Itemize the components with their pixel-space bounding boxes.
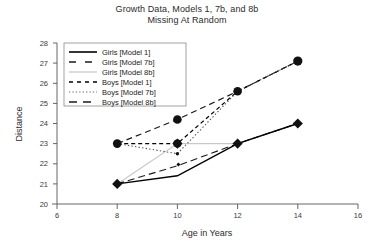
y-tick-label: 25	[40, 99, 48, 108]
y-axis-ticks	[52, 43, 57, 204]
y-tick-label: 26	[40, 79, 48, 88]
legend-label: Boys [Model 8b]	[102, 98, 156, 107]
y-axis-tick-labels: 20 21 22 23 24 25 26 27 28	[40, 39, 48, 209]
data-point-marker	[173, 115, 182, 124]
data-point-marker	[176, 152, 179, 155]
chart-figure: Growth Data, Models 1, 7b, and 8b Missin…	[0, 0, 374, 243]
data-point-marker	[176, 163, 180, 167]
data-point-marker	[293, 57, 302, 66]
data-point-marker	[233, 87, 242, 96]
x-tick-label: 8	[115, 211, 119, 220]
x-axis-ticks	[57, 204, 358, 209]
y-axis-label: Distance	[14, 106, 24, 141]
y-tick-label: 24	[40, 119, 48, 128]
legend-label: Girls [Model 8b]	[102, 68, 155, 77]
x-tick-label: 14	[294, 211, 302, 220]
x-tick-label: 12	[233, 211, 241, 220]
y-tick-label: 28	[40, 39, 48, 48]
x-axis-label: Age in Years	[182, 228, 233, 238]
data-point-marker	[112, 179, 122, 189]
y-tick-label: 22	[40, 159, 48, 168]
y-tick-label: 27	[40, 59, 48, 68]
legend-label: Boys [Model 7b]	[102, 88, 156, 97]
data-point-marker	[233, 139, 243, 149]
data-point-marker	[293, 118, 303, 128]
y-tick-label: 21	[40, 180, 48, 189]
x-tick-label: 6	[55, 211, 59, 220]
y-tick-label: 23	[40, 139, 48, 148]
x-tick-label: 10	[173, 211, 181, 220]
legend-label: Girls [Model 1]	[102, 48, 150, 57]
legend-label: Boys [Model 1]	[102, 78, 152, 87]
series-line-girls-model-1	[117, 124, 298, 184]
x-axis-tick-labels: 6 8 10 12 14 16	[55, 211, 362, 220]
plot-area: 20 21 22 23 24 25 26 27 28 6 8 10 12 14 …	[0, 0, 374, 243]
legend-label: Girls [Model 7b]	[102, 58, 155, 67]
chart-legend: Girls [Model 1] Girls [Model 7b] Girls […	[64, 43, 186, 107]
x-tick-label: 16	[354, 211, 362, 220]
data-point-marker	[113, 139, 122, 148]
y-tick-label: 20	[40, 200, 48, 209]
